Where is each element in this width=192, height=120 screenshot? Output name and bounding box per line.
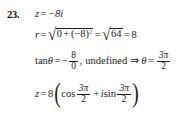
radicand-value-2: 64 [111,29,122,40]
sine-argument-fraction: 3π 2 [117,84,131,105]
radical-sign-icon: √ [48,26,56,43]
sine-label: sin [104,89,116,100]
line3-minus-sign: − [62,56,68,67]
line1-equals: = [39,9,48,20]
sine-denominator: 2 [117,94,131,105]
radical-expression-1: √ 0 + (−8) 2 [48,28,93,43]
line1-value: −8i [48,9,63,20]
tangent-numerator: 8 [69,51,78,61]
cosine-denominator: 2 [77,94,91,105]
cosine-numerator: 3π [77,84,91,94]
implies-arrow-icon: ⇒ [127,56,141,67]
radicand-1: 0 + (−8) 2 [56,28,94,43]
line2-equals-3: = [123,30,132,41]
line4-modulus: 8 [48,89,53,100]
paren-open: ( [55,83,61,104]
radicand-exponent: 2 [89,29,92,36]
step-line-2: r = √ 0 + (−8) 2 = √ 64 = 8 [35,25,192,45]
cosine-argument-fraction: 3π 2 [77,84,91,105]
radicand-term-b: (−8) [71,29,89,40]
sine-numerator: 3π [117,84,131,94]
cosine-label: cos [61,89,75,100]
tangent-denominator: 0 [69,61,78,72]
line3-equals-2: = [146,56,155,67]
solution-steps: z = −8i r = √ 0 + (−8) 2 = √ 64 [35,7,192,109]
line2-result: 8 [131,30,136,41]
line2-equals-2: = [93,30,102,41]
theta-result-denominator: 2 [157,61,171,72]
problem-number: 23. [7,9,20,20]
line4-plus: + [92,89,101,100]
theta-result-numerator: 3π [157,51,171,61]
paren-close: ) [133,83,139,104]
line2-equals: = [39,30,48,41]
line3-equals: = [53,56,62,67]
line3-comma: , [80,56,83,67]
solution-page: 23. z = −8i r = √ 0 + (−8) 2 = √ [0,0,192,120]
radicand-2: 64 [110,28,123,43]
step-line-1: z = −8i [35,7,192,21]
step-line-3: tan θ = − 8 0 , undefined ⇒ θ = 3π 2 [35,49,192,73]
tangent-label: tan [35,56,48,67]
step-line-4: z = 8 ( cos 3π 2 + i sin 3π 2 ) [35,79,192,109]
radicand-plus: + [62,29,71,40]
tangent-fraction: 8 0 [69,51,78,72]
theta-result-fraction: 3π 2 [157,51,171,72]
radical-sign-icon-2: √ [102,26,110,43]
radical-expression-2: √ 64 [102,28,122,43]
undefined-label: undefined [85,56,127,67]
line4-equals: = [39,89,48,100]
